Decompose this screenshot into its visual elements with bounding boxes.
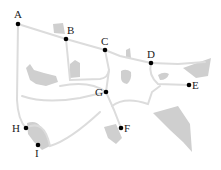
node-h[interactable] [24,126,29,131]
region-park-top [53,23,65,34]
map-canvas: A B C D E F G H I [0,0,221,170]
road-b-c [66,39,151,63]
label-c: C [101,35,108,47]
region-southeast [153,106,192,152]
label-b: B [67,24,74,36]
road-d-e [150,63,189,85]
road-h-loop [22,92,106,101]
region-oval-center [121,70,131,84]
road-a-h [17,24,26,128]
label-a: A [14,8,22,20]
regions [26,23,211,152]
node-b[interactable] [64,37,69,42]
label-i: I [35,147,39,159]
label-e: E [192,79,199,91]
node-a[interactable] [16,22,21,27]
label-h: H [12,122,20,134]
label-d: D [147,48,155,60]
node-c[interactable] [103,48,108,53]
road-g-f [106,92,121,128]
region-d-small [158,73,169,80]
node-g[interactable] [104,90,109,95]
label-g: G [95,86,103,98]
region-park-west [26,64,58,86]
region-east [183,58,211,78]
node-e[interactable] [187,83,192,88]
node-f[interactable] [119,126,124,131]
region-block-b [70,60,80,78]
map-diagram: A B C D E F G H I [0,0,221,170]
road-g-east [112,86,160,106]
label-f: F [124,122,130,134]
node-d[interactable] [149,61,154,66]
